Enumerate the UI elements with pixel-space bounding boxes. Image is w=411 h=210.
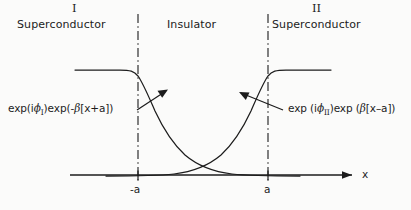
- formula-left-part2: )exp(-: [44, 102, 75, 114]
- formula-right-part3: [x–a]): [366, 102, 396, 114]
- formula-right: exp (iϕII)exp (β[x–a]): [288, 103, 395, 117]
- annotation-arrow-right: [239, 92, 283, 110]
- region-label-superconductor-1: Superconductor: [17, 19, 106, 30]
- annotation-arrow-left: [137, 90, 168, 111]
- x-axis-label: x: [362, 169, 368, 180]
- x-axis-arrowhead: [342, 171, 352, 179]
- x-axis: [70, 171, 352, 179]
- phi-symbol-left: ϕ: [34, 102, 41, 114]
- wavefunction-curve-left: [75, 70, 300, 176]
- region-label-superconductor-2: Superconductor: [272, 19, 361, 30]
- formula-right-part1: exp (i: [288, 102, 317, 114]
- region-numeral-1: I: [72, 3, 77, 15]
- region-numeral-2: II: [312, 3, 321, 15]
- tick-label-minus-a: -a: [130, 184, 140, 195]
- region-label-insulator: Insulator: [167, 19, 216, 30]
- phi-symbol-right: ϕ: [317, 102, 324, 114]
- wavefunction-curve-right: [106, 70, 331, 176]
- tick-label-a: a: [264, 184, 270, 195]
- formula-left: exp(iϕI)exp(-β[x+a]): [8, 103, 113, 117]
- formula-left-part1: exp(i: [8, 102, 34, 114]
- formula-left-part3: [x+a]): [80, 102, 113, 114]
- formula-right-part2: )exp (: [330, 102, 360, 114]
